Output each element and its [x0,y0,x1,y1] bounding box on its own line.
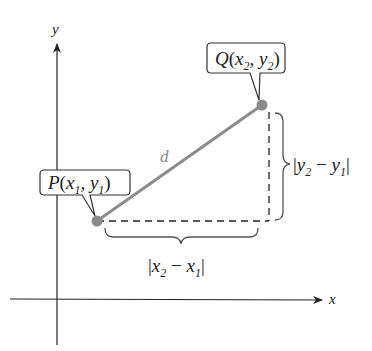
x-axis-label: x [328,291,336,307]
horizontal-brace [105,228,258,244]
point-q-callout: Q(x2, y2) [207,43,285,100]
distance-label: d [160,147,169,166]
distance-segment [97,105,262,221]
vertical-distance-label: |y2 − y1| [293,154,350,179]
horizontal-distance-label: |x2 − x1| [148,255,205,280]
point-q-marker [257,100,268,111]
y-axis-label: y [50,21,59,37]
point-p-marker [92,216,103,227]
vertical-brace [275,113,290,220]
distance-diagram: x y d |y2 − y1| |x2 − x1| Q(x2, y2) P(x1… [0,0,372,351]
